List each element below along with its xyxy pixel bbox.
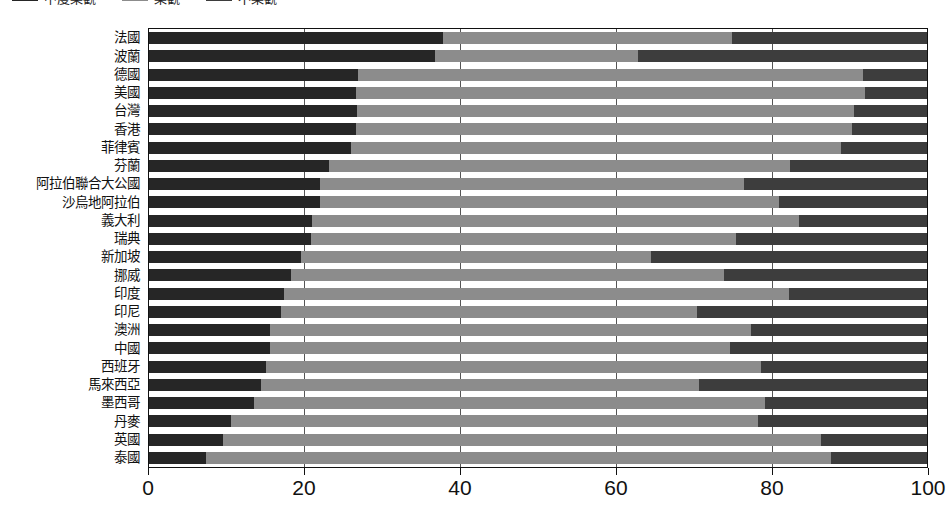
y-axis-label: 瑞典 (0, 230, 143, 248)
bar-row[interactable] (149, 102, 927, 120)
legend-label: 不樂觀 (238, 0, 277, 7)
bar-row[interactable] (149, 358, 927, 376)
bar-segment (356, 87, 865, 99)
stacked-bar (149, 452, 927, 464)
legend-label: 樂觀 (154, 0, 180, 7)
y-axis-label: 菲律賓 (0, 139, 143, 157)
bar-row[interactable] (149, 120, 927, 138)
bar-segment (751, 324, 927, 336)
bar-segment (730, 342, 927, 354)
bar-segment (779, 196, 927, 208)
bar-row[interactable] (149, 47, 927, 65)
y-axis-label: 泰國 (0, 449, 143, 467)
y-axis-label: 中國 (0, 339, 143, 357)
bar-series-container (149, 29, 927, 467)
stacked-bar (149, 142, 927, 154)
bar-segment (697, 306, 927, 318)
bar-segment (356, 123, 852, 135)
bar-segment (320, 196, 779, 208)
bar-segment (149, 324, 270, 336)
y-axis-label: 澳洲 (0, 321, 143, 339)
bar-segment (854, 105, 927, 117)
chart-legend: 中度樂觀 樂觀 不樂觀 (12, 0, 277, 7)
bar-row[interactable] (149, 339, 927, 357)
bar-row[interactable] (149, 230, 927, 248)
bar-row[interactable] (149, 285, 927, 303)
bar-segment (149, 269, 291, 281)
bar-segment (149, 288, 284, 300)
stacked-bar (149, 105, 927, 117)
bar-segment (149, 379, 261, 391)
y-axis-label: 沙烏地阿拉伯 (0, 193, 143, 211)
bar-segment (761, 361, 927, 373)
bar-row[interactable] (149, 449, 927, 467)
y-axis-label: 阿拉伯聯合大公國 (0, 175, 143, 193)
bar-row[interactable] (149, 303, 927, 321)
bar-row[interactable] (149, 175, 927, 193)
bar-row[interactable] (149, 66, 927, 84)
bar-segment (638, 50, 927, 62)
bar-segment (281, 306, 697, 318)
stacked-bar (149, 196, 927, 208)
bar-row[interactable] (149, 321, 927, 339)
y-axis-label: 英國 (0, 431, 143, 449)
bar-segment (435, 50, 637, 62)
line-swatch-icon (206, 0, 232, 1)
y-axis-label: 美國 (0, 84, 143, 102)
bar-segment (149, 142, 351, 154)
y-axis-label: 德國 (0, 66, 143, 84)
x-axis-tick (772, 468, 773, 475)
bar-segment (301, 251, 651, 263)
y-axis-label: 波蘭 (0, 47, 143, 65)
bar-row[interactable] (149, 212, 927, 230)
bar-row[interactable] (149, 193, 927, 211)
bar-segment (736, 233, 927, 245)
bar-segment (320, 178, 744, 190)
bar-segment (311, 233, 737, 245)
bar-row[interactable] (149, 29, 927, 47)
legend-entry[interactable]: 中度樂觀 (12, 0, 96, 7)
x-axis-tick-label: 60 (604, 477, 627, 498)
bar-segment (149, 196, 320, 208)
bar-segment (206, 452, 831, 464)
bar-segment (443, 32, 732, 44)
bar-segment (149, 415, 231, 427)
bar-segment (789, 288, 927, 300)
stacked-bar (149, 415, 927, 427)
y-axis-label: 台灣 (0, 102, 143, 120)
stacked-bar (149, 269, 927, 281)
legend-entry[interactable]: 不樂觀 (206, 0, 277, 7)
bar-row[interactable] (149, 431, 927, 449)
stacked-bar (149, 32, 927, 44)
bar-row[interactable] (149, 84, 927, 102)
bar-segment (149, 306, 281, 318)
bar-segment (149, 251, 301, 263)
stacked-bar (149, 160, 927, 172)
y-axis-label: 丹麥 (0, 412, 143, 430)
bar-segment (841, 142, 927, 154)
bar-segment (261, 379, 699, 391)
bar-row[interactable] (149, 376, 927, 394)
bar-segment (863, 69, 927, 81)
bar-segment (149, 87, 356, 99)
bar-row[interactable] (149, 394, 927, 412)
y-axis-label: 挪威 (0, 266, 143, 284)
bar-row[interactable] (149, 139, 927, 157)
bar-row[interactable] (149, 266, 927, 284)
stacked-bar (149, 342, 927, 354)
x-axis-tick-label: 20 (292, 477, 315, 498)
stacked-bar (149, 324, 927, 336)
stacked-bar (149, 50, 927, 62)
stacked-bar (149, 434, 927, 446)
stacked-bar (149, 233, 927, 245)
x-axis-tick (928, 468, 929, 475)
bar-row[interactable] (149, 412, 927, 430)
bar-row[interactable] (149, 248, 927, 266)
bar-row[interactable] (149, 157, 927, 175)
y-axis-label: 馬來西亞 (0, 376, 143, 394)
bar-segment (254, 397, 765, 409)
bar-segment (149, 69, 358, 81)
bar-segment (223, 434, 821, 446)
legend-entry[interactable]: 樂觀 (122, 0, 180, 7)
